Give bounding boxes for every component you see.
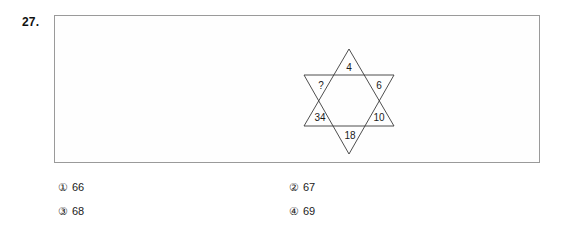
answer-option-1-marker: ① (58, 180, 68, 194)
star-label-lower-left: 34 (314, 112, 326, 123)
question-page: 27. 4 6 10 18 34 ? ①66 ②67 (0, 0, 568, 232)
star-figure: 4 6 10 18 34 ? (295, 41, 407, 163)
answer-option-1[interactable]: ①66 (58, 180, 84, 194)
star-label-top: 4 (346, 62, 352, 73)
answer-option-4-label: 69 (303, 205, 315, 217)
answer-option-4-marker: ④ (289, 204, 299, 218)
star-label-bottom: 18 (344, 130, 356, 141)
answer-option-4[interactable]: ④69 (289, 204, 315, 218)
star-label-lower-right: 10 (373, 112, 385, 123)
answer-options-row-1: ①66 ②67 (54, 176, 540, 200)
star-label-unknown: ? (318, 80, 324, 91)
answer-option-1-label: 66 (72, 181, 84, 193)
answer-option-3[interactable]: ③68 (58, 204, 84, 218)
answer-option-2-marker: ② (289, 180, 299, 194)
star-label-upper-right: 6 (376, 80, 382, 91)
answer-options: ①66 ②67 ③68 ④69 (54, 176, 540, 224)
answer-option-2-label: 67 (303, 181, 315, 193)
answer-options-row-2: ③68 ④69 (54, 200, 540, 224)
answer-option-2[interactable]: ②67 (289, 180, 315, 194)
question-number: 27. (22, 15, 39, 29)
star-of-david-icon: 4 6 10 18 34 ? (295, 41, 407, 163)
figure-box: 4 6 10 18 34 ? (54, 15, 540, 163)
answer-option-3-label: 68 (72, 205, 84, 217)
answer-option-3-marker: ③ (58, 204, 68, 218)
